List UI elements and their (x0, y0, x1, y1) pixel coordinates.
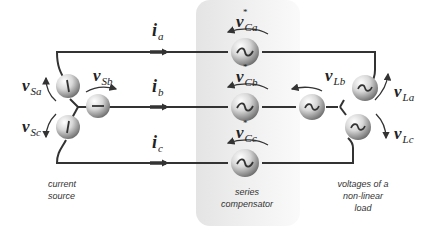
current-label-a: ia (152, 20, 164, 42)
vSc-arrow-icon (46, 114, 56, 137)
source-voltage-label-a: vSa (22, 76, 42, 97)
load-voltage-label-b: vLb (325, 66, 345, 87)
load-voltage-label-c: vLc (394, 124, 414, 145)
vLc-arrow-icon (376, 114, 386, 138)
caption-current-source: current source (48, 178, 76, 202)
compensator-voltage-label-a: * vCa (236, 12, 257, 33)
source-voltage-label-c: vSc (22, 117, 41, 138)
current-label-c: ic (152, 132, 163, 154)
vSa-arrow-icon (46, 78, 56, 101)
load-voltage-label-a: vLa (394, 82, 414, 103)
source-voltage-label-b: vSb (93, 66, 113, 87)
vSb-arrow-icon (86, 87, 116, 92)
compensator-voltage-label-b: * vCb (236, 67, 257, 88)
caption-series-compensator: series compensator (214, 186, 280, 210)
circuit-diagram: ia ib ic vSa vSb vSc * vCa * vCb * vCc v… (0, 0, 436, 232)
caption-nonlinear-load: voltages of a non-linear load (328, 178, 398, 214)
series-compensator (231, 38, 259, 177)
compensator-voltage-label-c: * vCc (236, 123, 257, 144)
current-label-b: ib (152, 76, 164, 98)
